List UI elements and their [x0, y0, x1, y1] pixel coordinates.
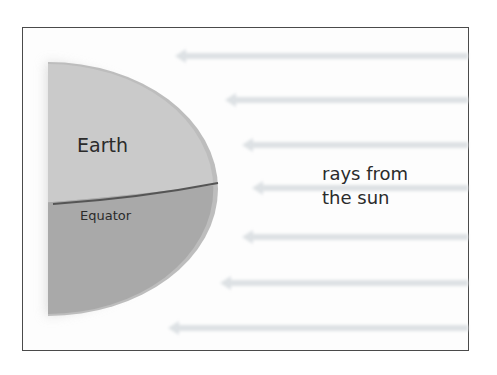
earth-label: Earth [77, 134, 128, 156]
rays-from-sun-label: rays from the sun [322, 162, 442, 210]
rays-label-line2: the sun [322, 186, 442, 210]
ray-arrow [225, 93, 468, 107]
ray-arrow [220, 276, 468, 290]
ray-arrow [175, 49, 468, 63]
ray-arrow [242, 230, 468, 244]
equator-label: Equator [80, 208, 131, 223]
rays-label-line1: rays from [322, 162, 442, 186]
ray-arrow [168, 321, 468, 335]
ray-arrow [242, 138, 468, 152]
